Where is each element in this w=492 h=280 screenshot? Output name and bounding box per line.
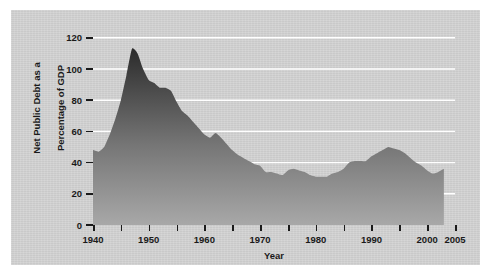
y-axis-tick: 100 — [66, 64, 93, 75]
debt-area-series — [93, 48, 444, 225]
x-axis-tick-mark — [316, 225, 318, 231]
x-axis-tick-mark — [204, 225, 206, 231]
y-axis-tick-label: 120 — [66, 32, 82, 43]
y-axis-tick-label: 100 — [66, 64, 82, 75]
y-axis-tick: 0 — [77, 220, 93, 231]
x-axis-tick-label: 2005 — [444, 234, 465, 245]
figure-panel: Net Public Debt as a Percentage of GDP 0… — [11, 10, 480, 265]
y-axis-tick: 60 — [71, 126, 93, 137]
x-axis-tick-mark — [93, 225, 95, 231]
y-axis-tick-label: 20 — [71, 188, 82, 199]
x-axis-tick-group — [93, 225, 455, 232]
x-axis-tick-mark — [232, 225, 234, 231]
x-axis-title: Year — [93, 250, 455, 261]
x-axis-tick-label: 2000 — [417, 234, 438, 245]
x-axis-tick-mark — [288, 225, 290, 231]
x-axis-tick-mark — [371, 225, 373, 231]
x-axis-tick-mark — [344, 225, 346, 231]
x-axis-tick-label: 1950 — [138, 234, 159, 245]
y-axis-tick-dash — [86, 37, 93, 39]
y-axis-tick-dash — [86, 162, 93, 164]
y-axis-tick-dash — [86, 224, 93, 226]
y-axis-tick-dash — [86, 68, 93, 70]
y-axis-tick-label: 40 — [71, 157, 82, 168]
x-axis-tick-mark — [427, 225, 429, 231]
plot-area — [93, 30, 455, 225]
y-axis-tick-label: 0 — [77, 220, 82, 231]
y-axis-tick: 120 — [66, 32, 93, 43]
x-axis-tick-label: 1940 — [82, 234, 103, 245]
x-axis-label-group: 19401950196019701980199020002005 — [93, 234, 465, 248]
x-axis-tick-mark — [455, 225, 457, 231]
y-axis-tick: 80 — [71, 95, 93, 106]
x-axis-tick-mark — [177, 225, 179, 231]
y-axis-tick-label: 60 — [71, 126, 82, 137]
y-axis-tick: 40 — [71, 157, 93, 168]
x-axis-tick-mark — [149, 225, 151, 231]
y-axis-tick-label: 80 — [71, 95, 82, 106]
x-axis-tick-mark — [121, 225, 123, 231]
y-axis-title-line1: Net Public Debt as a — [31, 62, 42, 153]
x-axis-tick-label: 1960 — [194, 234, 215, 245]
y-axis-tick-dash — [86, 193, 93, 195]
x-axis-tick-label: 1980 — [305, 234, 326, 245]
x-axis-tick-mark — [260, 225, 262, 231]
x-axis-tick-mark — [399, 225, 401, 231]
y-axis-tick-dash — [86, 131, 93, 133]
x-axis-tick-label: 1990 — [361, 234, 382, 245]
y-axis-tick-dash — [86, 99, 93, 101]
y-axis-tick: 20 — [71, 188, 93, 199]
area-chart-svg — [93, 30, 455, 225]
x-axis-tick-label: 1970 — [249, 234, 270, 245]
y-axis-tick-group: 020406080100120 — [51, 30, 93, 225]
